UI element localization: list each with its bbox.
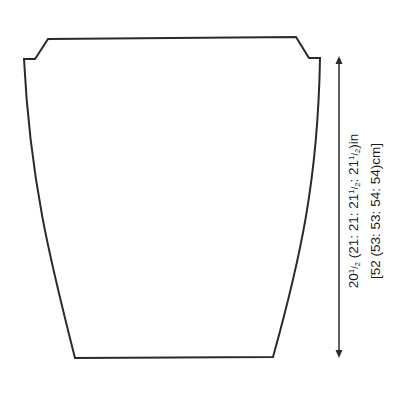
arrowhead-down-icon (336, 350, 343, 358)
measurement-metric: [52 (53: 53: 54: 54)cm] (366, 134, 383, 288)
measurement-imperial: 201/2 (21: 21: 211/2: 211/2)in (343, 134, 367, 288)
height-dimension-arrow (336, 56, 343, 358)
height-measurement-label: 201/2 (21: 21: 211/2: 211/2)in [52 (53: … (343, 134, 384, 288)
panel-outline (24, 37, 320, 358)
arrowhead-up-icon (336, 56, 343, 64)
